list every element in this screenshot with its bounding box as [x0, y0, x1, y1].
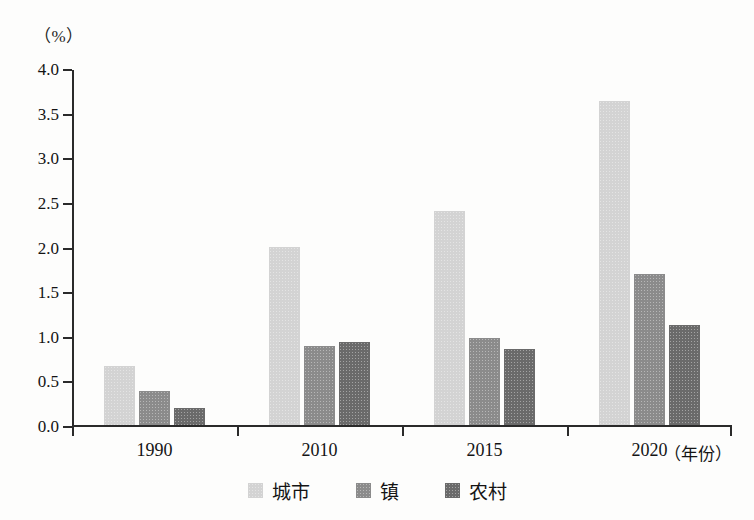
y-axis-line — [72, 70, 74, 427]
x-tick-mark — [567, 427, 569, 436]
bar-group-2020 — [599, 101, 700, 425]
legend-swatch-icon — [356, 483, 371, 498]
y-tick-mark — [63, 292, 72, 294]
y-tick-mark — [63, 158, 72, 160]
y-tick-label: 4.0 — [38, 60, 59, 80]
chart-legend: 城市镇农村 — [0, 477, 754, 504]
bar-group-1990 — [104, 366, 205, 425]
legend-swatch-icon — [248, 483, 263, 498]
chart-figure: （%） 0.00.51.01.52.02.53.03.54.0 19902010… — [0, 0, 754, 520]
legend-item-城市: 城市 — [248, 477, 310, 504]
y-tick-label: 2.0 — [38, 239, 59, 259]
y-tick-mark — [63, 381, 72, 383]
bar-2015-镇 — [469, 338, 500, 425]
bar-2020-城市 — [599, 101, 630, 425]
bar-2015-农村 — [504, 349, 535, 425]
x-axis-title: （年份） — [664, 440, 732, 465]
y-tick-label: 0.5 — [38, 372, 59, 392]
x-tick-mark — [730, 427, 732, 436]
y-tick-label: 1.5 — [38, 283, 59, 303]
legend-item-镇: 镇 — [356, 477, 399, 504]
bar-2010-农村 — [339, 342, 370, 425]
legend-label: 城市 — [272, 477, 310, 504]
x-tick-mark — [72, 427, 74, 436]
y-tick-label: 1.0 — [38, 328, 59, 348]
bar-1990-农村 — [174, 408, 205, 425]
bar-group-2010 — [269, 247, 370, 426]
y-tick-label: 3.0 — [38, 149, 59, 169]
legend-swatch-icon — [445, 483, 460, 498]
x-tick-mark — [402, 427, 404, 436]
y-tick-mark — [63, 426, 72, 428]
bar-2020-农村 — [669, 325, 700, 425]
y-tick-label: 3.5 — [38, 105, 59, 125]
bar-1990-镇 — [139, 391, 170, 425]
legend-label: 镇 — [380, 477, 399, 504]
y-tick-mark — [63, 69, 72, 71]
legend-item-农村: 农村 — [445, 477, 507, 504]
x-tick-label-2010: 2010 — [302, 440, 338, 461]
bar-2015-城市 — [434, 211, 465, 425]
y-tick-mark — [63, 337, 72, 339]
y-axis-unit-label: （%） — [34, 22, 84, 47]
legend-label: 农村 — [469, 477, 507, 504]
bar-1990-城市 — [104, 366, 135, 425]
y-tick-label: 2.5 — [38, 194, 59, 214]
y-tick-mark — [63, 203, 72, 205]
bar-2010-城市 — [269, 247, 300, 426]
x-tick-label-2015: 2015 — [467, 440, 503, 461]
y-tick-mark — [63, 248, 72, 250]
x-tick-mark — [237, 427, 239, 436]
bar-2020-镇 — [634, 274, 665, 425]
bar-2010-镇 — [304, 346, 335, 425]
bar-group-2015 — [434, 211, 535, 425]
plot-area: 0.00.51.01.52.02.53.03.54.0 — [72, 70, 732, 427]
x-tick-label-2020: 2020 — [632, 440, 668, 461]
x-tick-label-1990: 1990 — [137, 440, 173, 461]
y-tick-label: 0.0 — [38, 417, 59, 437]
y-tick-mark — [63, 114, 72, 116]
